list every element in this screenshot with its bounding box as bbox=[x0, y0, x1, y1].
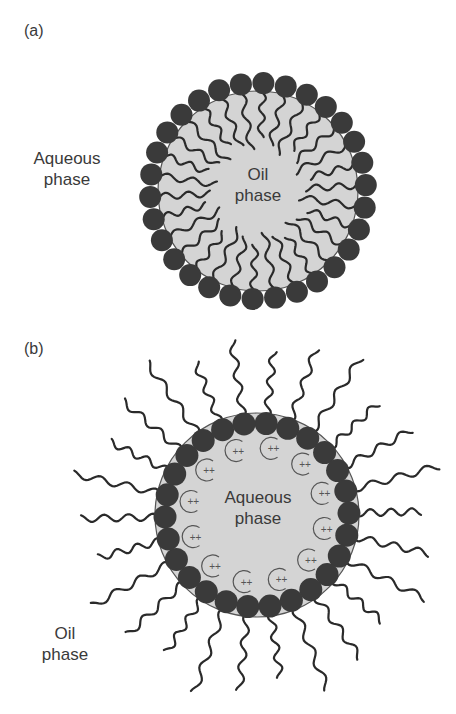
surfactant-head bbox=[264, 287, 286, 309]
surfactant-tail bbox=[126, 582, 186, 633]
panel-b-inner-label: Aqueous phase bbox=[208, 487, 308, 529]
ion-charge: ++ bbox=[268, 443, 280, 454]
surfactant-head bbox=[335, 524, 358, 547]
surfactant-head bbox=[154, 505, 177, 528]
ion-charge: ++ bbox=[203, 465, 215, 476]
ion-charge: ++ bbox=[241, 577, 253, 588]
ion-charge: ++ bbox=[233, 446, 245, 457]
panel-a-inner-label: Oil phase bbox=[213, 164, 303, 206]
surfactant-head bbox=[331, 112, 353, 134]
surfactant-head bbox=[276, 417, 299, 440]
surfactant-head bbox=[171, 104, 193, 126]
panel-b-inner-label-line1: Aqueous bbox=[208, 487, 308, 508]
surfactant-head bbox=[230, 73, 252, 95]
ion-charge: ++ bbox=[299, 459, 311, 470]
surfactant-head bbox=[156, 483, 179, 506]
ion-charge: ++ bbox=[190, 532, 202, 543]
surfactant-tail bbox=[125, 399, 182, 452]
surfactant-tail bbox=[236, 613, 249, 690]
micelle-diagram: ++++++++++++++++++++++++ bbox=[0, 0, 456, 714]
surfactant-head bbox=[208, 79, 230, 101]
panel-a-inner-label-line1: Oil bbox=[213, 164, 303, 185]
surfactant-head bbox=[252, 72, 274, 94]
surfactant-head bbox=[334, 480, 357, 503]
surfactant-head bbox=[215, 590, 238, 613]
ion-charge: ++ bbox=[305, 555, 317, 566]
surfactant-tail bbox=[290, 350, 319, 422]
surfactant-tail bbox=[150, 361, 200, 436]
surfactant-head bbox=[259, 595, 282, 618]
surfactant-tail bbox=[332, 578, 380, 623]
surfactant-head bbox=[275, 76, 297, 98]
surfactant-head bbox=[219, 284, 241, 306]
surfactant-head bbox=[192, 429, 215, 452]
surfactant-head bbox=[324, 256, 346, 278]
surfactant-tail bbox=[196, 362, 222, 424]
surfactant-tail bbox=[314, 595, 357, 660]
surfactant-head bbox=[354, 197, 376, 219]
surfactant-head bbox=[355, 174, 377, 196]
surfactant-head bbox=[255, 412, 278, 435]
surfactant-tail bbox=[74, 471, 161, 494]
panel-b-outer-label: Oil phase bbox=[20, 623, 110, 665]
surfactant-tail bbox=[91, 562, 171, 604]
ion-charge: ++ bbox=[319, 488, 331, 499]
panel-a-outer-label-line2: phase bbox=[22, 169, 112, 190]
surfactant-head bbox=[338, 239, 360, 261]
surfactant-tail bbox=[329, 406, 380, 448]
panel-a-outer-label-line1: Aqueous bbox=[22, 148, 112, 169]
surfactant-head bbox=[286, 281, 308, 303]
ion-charge: ++ bbox=[188, 496, 200, 507]
surfactant-tail bbox=[112, 439, 170, 472]
surfactant-head bbox=[306, 270, 328, 292]
surfactant-head bbox=[242, 288, 264, 310]
surfactant-tail bbox=[268, 612, 282, 678]
ion-charge: ++ bbox=[276, 574, 288, 585]
surfactant-tail bbox=[311, 360, 363, 433]
surfactant-head bbox=[179, 264, 201, 286]
surfactant-head bbox=[233, 412, 256, 435]
ion-charge: ++ bbox=[209, 561, 221, 572]
surfactant-tail bbox=[343, 432, 413, 469]
panel-b-inner-label-line2: phase bbox=[208, 508, 308, 529]
surfactant-head bbox=[146, 142, 168, 164]
surfactant-tail bbox=[355, 508, 421, 516]
surfactant-head bbox=[299, 578, 322, 601]
surfactant-tail bbox=[353, 537, 428, 557]
surfactant-tail bbox=[345, 559, 424, 602]
surfactant-head bbox=[315, 96, 337, 118]
surfactant-head bbox=[343, 131, 365, 153]
surfactant-head bbox=[188, 90, 210, 112]
surfactant-head bbox=[338, 502, 361, 525]
surfactant-head bbox=[165, 548, 188, 571]
surfactant-tail bbox=[230, 340, 246, 418]
surfactant-tail bbox=[164, 597, 203, 650]
surfactant-head bbox=[348, 219, 370, 241]
panel-b-outer-label-line2: phase bbox=[20, 644, 110, 665]
surfactant-head bbox=[163, 248, 185, 270]
surfactant-head bbox=[156, 121, 178, 143]
surfactant-head bbox=[151, 229, 173, 251]
surfactant-head bbox=[280, 589, 303, 612]
surfactant-head bbox=[143, 208, 165, 230]
surfactant-head bbox=[296, 84, 318, 106]
surfactant-head bbox=[198, 276, 220, 298]
surfactant-head bbox=[326, 459, 349, 482]
panel-a-outer-label: Aqueous phase bbox=[22, 148, 112, 190]
surfactant-tail bbox=[265, 352, 277, 417]
surfactant-head bbox=[236, 595, 259, 618]
surfactant-head bbox=[211, 418, 234, 441]
panel-b-outer-label-line1: Oil bbox=[20, 623, 110, 644]
surfactant-tail bbox=[98, 538, 163, 558]
panel-a-inner-label-line2: phase bbox=[213, 185, 303, 206]
surfactant-tail bbox=[81, 514, 159, 522]
surfactant-head bbox=[139, 186, 161, 208]
surfactant-head bbox=[157, 527, 180, 550]
surfactant-tail bbox=[352, 466, 440, 491]
surfactant-tail bbox=[293, 606, 327, 691]
ion-charge: ++ bbox=[321, 524, 333, 535]
surfactant-head bbox=[140, 163, 162, 185]
surfactant-head bbox=[351, 152, 373, 174]
surfactant-tail bbox=[191, 607, 224, 691]
